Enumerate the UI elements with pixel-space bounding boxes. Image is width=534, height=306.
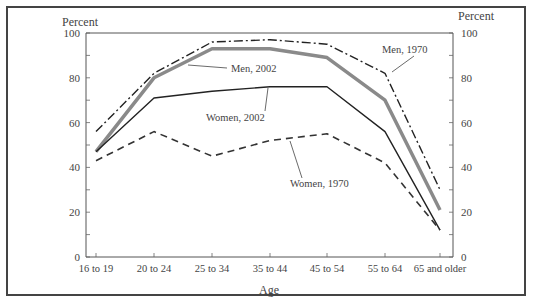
x-tick-label: 25 to 34	[195, 263, 230, 274]
label-women-1970: Women, 1970	[290, 178, 349, 189]
label-men-1970: Men, 1970	[382, 44, 428, 55]
y-tick-right: 60	[461, 117, 473, 129]
x-tick-label: 55 to 64	[368, 263, 403, 274]
y-tick-right: 100	[461, 27, 478, 39]
y-tick-right: 80	[461, 72, 473, 84]
line-chart: 00202040406060808010010016 to 1920 to 24…	[0, 0, 534, 306]
x-axis-label: Age	[259, 283, 279, 297]
x-tick-label: 45 to 54	[310, 263, 345, 274]
y-tick-right: 20	[461, 206, 473, 218]
y-axis-label-left: Percent	[62, 15, 99, 29]
y-tick-left: 20	[69, 206, 81, 218]
y-axis-label-right: Percent	[458, 9, 495, 23]
label-men-2002: Men, 2002	[231, 63, 277, 74]
y-tick-left: 80	[69, 72, 81, 84]
x-tick-label: 16 to 19	[79, 263, 113, 274]
x-tick-label: 65 and older	[414, 263, 467, 274]
y-tick-left: 60	[69, 117, 81, 129]
y-tick-left: 40	[69, 161, 81, 173]
series-women-1970	[96, 132, 440, 231]
y-tick-left: 0	[75, 251, 81, 263]
x-tick-label: 20 to 24	[137, 263, 172, 274]
y-tick-right: 40	[461, 161, 473, 173]
x-tick-label: 35 to 44	[253, 263, 288, 274]
label-women-2002: Women, 2002	[206, 112, 265, 123]
y-tick-right: 0	[461, 251, 467, 263]
annotations: Percent Percent Age Men, 1970 Men, 2002 …	[62, 9, 495, 297]
